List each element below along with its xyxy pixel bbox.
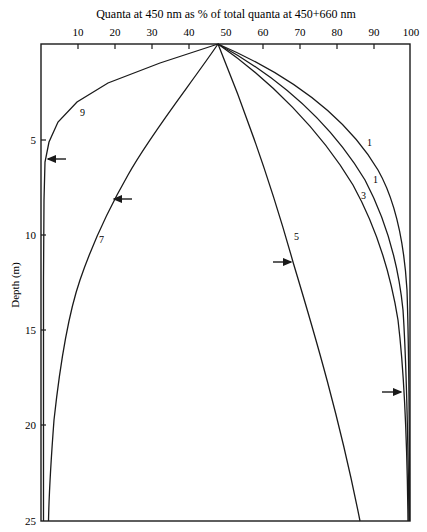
arrows [48,159,401,392]
x-tick-label: 50 [221,26,233,38]
y-tick-label: 5 [31,134,37,146]
curve-label-1-inner: 1 [373,174,378,185]
x-tick-label: 70 [295,26,307,38]
curve-1-inner [218,44,409,521]
plot-frame [41,44,410,521]
x-tick-label: 20 [110,26,122,38]
y-axis-label: Depth (m) [9,262,22,308]
chart-title: Quanta at 450 nm as % of total quanta at… [96,7,356,21]
curve-3 [218,44,408,521]
curve-label-1-outer: 1 [367,137,372,148]
depth-quanta-chart: Quanta at 450 nm as % of total quanta at… [0,0,427,532]
x-tick-label: 90 [369,26,381,38]
x-tick-label: 30 [147,26,159,38]
curve-label-3: 3 [361,190,366,201]
x-tick-label: 40 [184,26,196,38]
y-tick-label: 20 [25,419,37,431]
curve-9 [44,44,219,521]
y-tick-label: 10 [25,229,37,241]
y-tick-labels: 5 10 15 20 25 [25,134,37,527]
curves [44,44,410,521]
curve-label-5: 5 [294,231,299,242]
x-tick-label: 10 [73,26,85,38]
x-tick-label: 80 [332,26,344,38]
curve-labels: 9 7 5 3 1 1 [80,107,378,245]
curve-label-9: 9 [80,107,85,118]
x-tick-label: 60 [258,26,270,38]
curve-7 [49,44,219,521]
x-tick-labels: 10 20 30 40 50 60 70 80 90 100 [73,26,420,38]
curve-5 [218,44,360,521]
x-tick-label: 100 [403,26,420,38]
y-tick-label: 25 [25,515,37,527]
curve-label-7: 7 [99,234,104,245]
y-tick-label: 15 [25,324,37,336]
